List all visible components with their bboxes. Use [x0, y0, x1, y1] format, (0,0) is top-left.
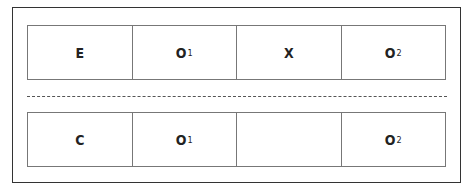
control-group-row: C O1 O2 — [27, 112, 446, 167]
empty-treatment-cell — [236, 113, 341, 166]
posttest-cell: O2 — [341, 113, 446, 166]
group-label-cell: E — [28, 26, 132, 79]
pretest-cell: O1 — [132, 26, 237, 79]
treatment-cell: X — [236, 26, 341, 79]
experimental-group-row: E O1 X O2 — [27, 25, 446, 80]
pretest-cell: O1 — [132, 113, 237, 166]
group-separator — [27, 96, 447, 97]
posttest-cell: O2 — [341, 26, 446, 79]
group-label-cell: C — [28, 113, 132, 166]
